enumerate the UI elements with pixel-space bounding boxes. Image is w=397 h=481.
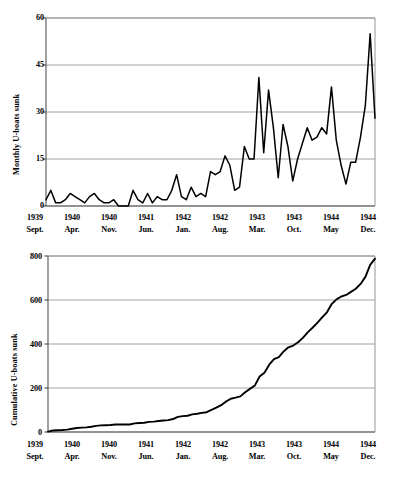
monthly-xtick-3: 1941 Jun. <box>126 212 166 236</box>
monthly-xtick-7: 1943 Oct. <box>274 212 314 236</box>
monthly-ytick-45: 45 <box>18 60 44 69</box>
monthly-xtick-8: 1944 May <box>311 212 351 236</box>
cumulative-ytick-800: 800 <box>16 252 42 261</box>
cumulative-xtick-5: 1942 Aug. <box>200 439 240 463</box>
monthly-plot-area <box>0 0 397 243</box>
cumulative-xtick-4: 1942 Jan. <box>163 439 203 463</box>
cumulative-xtick-2: 1940 Nov. <box>89 439 129 463</box>
data-series-line <box>48 259 375 432</box>
cumulative-xtick-3: 1941 Jun. <box>126 439 166 463</box>
cumulative-xtick-6: 1943 Mar. <box>237 439 277 463</box>
monthly-xtick-6: 1943 Mar. <box>237 212 277 236</box>
cumulative-xtick-1: 1940 Apr. <box>52 439 92 463</box>
monthly-ytick-0: 0 <box>18 201 44 210</box>
monthly-xtick-9: 1944 Dec. <box>348 212 388 236</box>
monthly-xtick-2: 1940 Nov. <box>89 212 129 236</box>
monthly-xtick-4: 1942 Jan. <box>163 212 203 236</box>
cumulative-uboats-chart: Cumulative U-boats sunk 800 600 400 200 … <box>0 243 397 481</box>
monthly-xtick-5: 1942 Aug. <box>200 212 240 236</box>
cumulative-xtick-8: 1944 May <box>311 439 351 463</box>
monthly-ytick-15: 15 <box>18 154 44 163</box>
monthly-xtick-0: 1939 Sept. <box>15 212 55 236</box>
cumulative-ytick-600: 600 <box>16 296 42 305</box>
cumulative-xtick-0: 1939 Sept. <box>15 439 55 463</box>
cumulative-ytick-200: 200 <box>16 384 42 393</box>
cumulative-ytick-0: 0 <box>16 428 42 437</box>
monthly-uboats-chart: Monthly U-boats sunk 60 45 30 15 0 1939 … <box>0 0 397 243</box>
monthly-ytick-30: 30 <box>18 107 44 116</box>
data-series-line <box>46 34 375 206</box>
cumulative-xtick-9: 1944 Dec. <box>348 439 388 463</box>
monthly-xtick-1: 1940 Apr. <box>52 212 92 236</box>
cumulative-ytick-400: 400 <box>16 340 42 349</box>
monthly-ytick-60: 60 <box>18 13 44 22</box>
cumulative-xtick-7: 1943 Oct. <box>274 439 314 463</box>
